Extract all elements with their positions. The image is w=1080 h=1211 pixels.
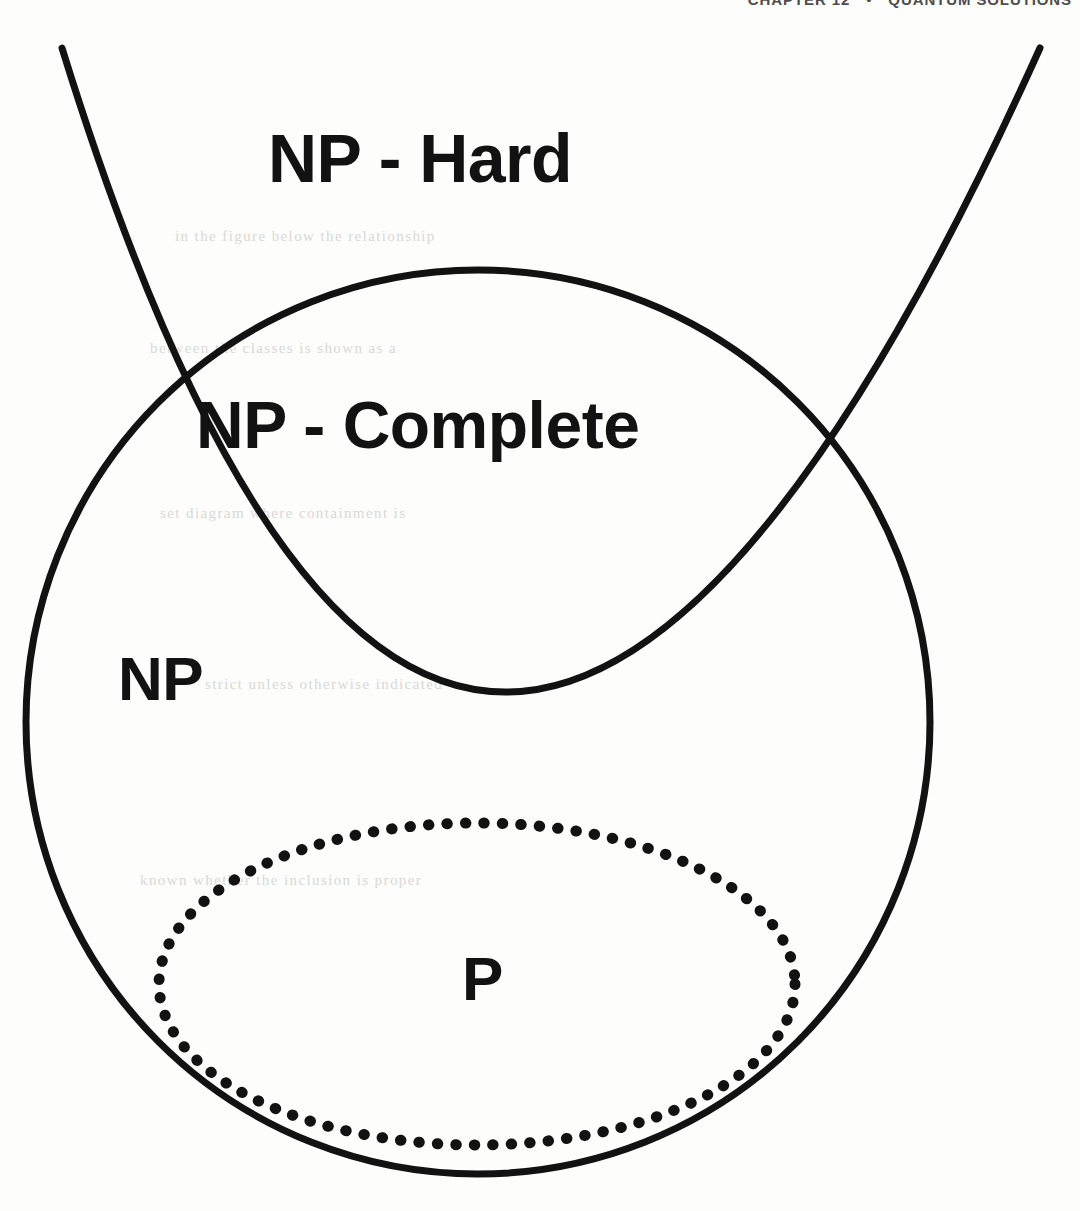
- label-np: NP: [118, 648, 203, 710]
- label-p: P: [462, 948, 503, 1010]
- label-np-complete: NP - Complete: [196, 392, 639, 458]
- label-np-hard: NP - Hard: [268, 124, 572, 192]
